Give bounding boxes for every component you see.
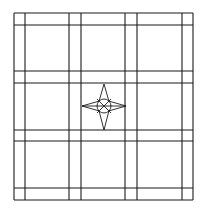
star-outline xyxy=(82,84,126,130)
tile-grid-diagram xyxy=(0,0,204,213)
diagram-canvas xyxy=(0,0,204,213)
star-motif-icon xyxy=(82,84,126,130)
